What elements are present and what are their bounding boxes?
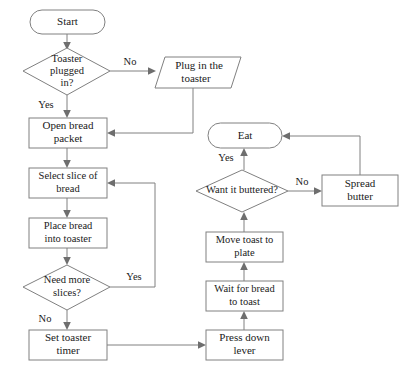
node-eat[interactable]: Eat [208, 123, 282, 148]
node-open-bread-packet[interactable]: Open bread packet [29, 118, 107, 148]
node-toaster-plugged-in-label-line3: in? [61, 77, 74, 88]
node-press-down-lever-label-line1: Press down [219, 331, 270, 343]
node-toaster-plugged-in-label-line2: plugged [50, 65, 85, 76]
node-place-bread-into-toaster[interactable]: Place bread into toaster [29, 218, 107, 248]
flowchart-svg: Plug in the toaster --> Open bread packe… [0, 0, 416, 386]
edge-label-needmore-yes: Yes [126, 271, 141, 282]
node-toaster-plugged-in-label-line1: Toaster [52, 53, 83, 64]
node-wait-for-bread-to-toast-label-line2: to toast [229, 296, 260, 307]
node-open-bread-packet-label-line2: packet [54, 132, 83, 144]
node-spread-butter[interactable]: Spread butter [322, 175, 398, 206]
node-plug-in-toaster[interactable]: Plug in the toaster [155, 57, 241, 88]
node-start[interactable]: Start [30, 10, 105, 34]
node-select-slice-of-bread-label-line1: Select slice of [39, 170, 98, 181]
edge-open-to-select [63, 148, 71, 168]
node-need-more-slices-label-line1: Need more [44, 274, 91, 285]
node-move-toast-to-plate[interactable]: Move toast to plate [206, 232, 283, 262]
node-move-toast-to-plate-label-line1: Move toast to [216, 234, 274, 245]
node-plug-in-toaster-label-line2: toaster [181, 72, 211, 84]
node-open-bread-packet-label-line1: Open bread [42, 119, 94, 131]
flowchart-canvas: Plug in the toaster --> Open bread packe… [0, 0, 416, 386]
edge-label-plugged-no: No [124, 56, 137, 67]
node-press-down-lever[interactable]: Press down lever [206, 330, 283, 360]
node-set-toaster-timer[interactable]: Set toaster timer [29, 330, 107, 360]
node-toaster-plugged-in[interactable]: Toaster plugged in? [23, 48, 110, 95]
node-spread-butter-label-line2: butter [347, 190, 373, 202]
node-want-it-buttered-label: Want it buttered? [206, 184, 278, 195]
edge-label-buttered-no: No [296, 176, 309, 187]
node-move-toast-to-plate-label-line2: plate [234, 247, 255, 258]
edge-label-needmore-no: No [39, 313, 52, 324]
edge-select-to-place [63, 198, 71, 218]
edge-buttered-yes-to-eat [240, 148, 248, 170]
node-select-slice-of-bread[interactable]: Select slice of bread [29, 168, 107, 198]
edge-settimer-to-presslever [107, 341, 206, 349]
node-select-slice-of-bread-label-line2: bread [56, 183, 80, 194]
node-wait-for-bread-to-toast-label-line1: Wait for bread [214, 283, 275, 294]
edge-movetoast-to-buttered [240, 212, 248, 232]
node-set-toaster-timer-label-line2: timer [56, 344, 80, 356]
edge-waittoast-to-movetoast [240, 262, 248, 281]
edge-plug-to-open [107, 88, 193, 137]
node-press-down-lever-label-line2: lever [234, 344, 256, 356]
node-want-it-buttered[interactable]: Want it buttered? [196, 170, 288, 212]
edge-label-buttered-yes: Yes [218, 152, 233, 163]
edge-plugged-yes-to-open [63, 95, 71, 118]
node-set-toaster-timer-label-line1: Set toaster [45, 331, 91, 343]
node-spread-butter-label-line1: Spread [345, 177, 376, 189]
edge-presslever-to-waittoast [240, 311, 248, 330]
node-wait-for-bread-to-toast[interactable]: Wait for bread to toast [206, 281, 283, 311]
edge-plugged-no-to-plug [110, 67, 156, 75]
edge-place-to-needmore [63, 248, 71, 265]
node-need-more-slices[interactable]: Need more slices? [23, 265, 110, 310]
node-start-label: Start [57, 15, 78, 27]
edge-buttered-no-to-spread [288, 187, 322, 195]
node-need-more-slices-label-line2: slices? [53, 287, 81, 298]
edge-spread-to-eat [282, 132, 360, 175]
node-plug-in-toaster-label-line1: Plug in the [175, 59, 223, 71]
node-eat-label: Eat [238, 129, 253, 141]
edge-label-plugged-yes: Yes [38, 99, 53, 110]
edge-needmore-no-to-settimer [63, 310, 71, 330]
node-place-bread-into-toaster-label-line2: into toaster [45, 233, 92, 244]
node-place-bread-into-toaster-label-line1: Place bread [44, 220, 93, 231]
